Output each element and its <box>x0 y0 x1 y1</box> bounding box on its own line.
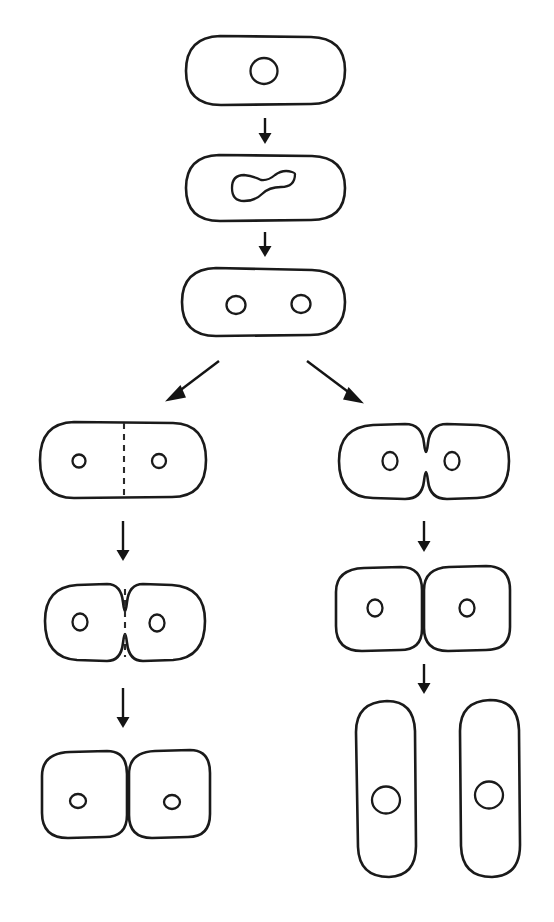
arrow-branch-right <box>307 361 364 404</box>
nucleus-right-right-stage-2 <box>460 600 475 617</box>
cell-outline-right-stage-1 <box>339 424 509 499</box>
nucleus-stage-1 <box>251 58 278 84</box>
arrow-branch-left <box>165 361 219 402</box>
nucleus-left-right-stage-2 <box>368 600 383 617</box>
arrow-right-stage-2-to-3 <box>418 664 431 694</box>
left-stage-constricting <box>45 584 205 661</box>
nucleus-left-left-stage-1 <box>73 455 86 468</box>
nucleus-left-left-stage-2 <box>73 614 88 631</box>
right-stage-daughter-cells <box>336 566 510 651</box>
nucleus-right-left-stage-2 <box>150 615 165 632</box>
arrow-left-stage-1-to-2 <box>117 521 130 561</box>
left-stage-daughter-cells <box>42 750 210 838</box>
cell-outline-left-stage-3-right <box>129 750 210 838</box>
nucleus-right-stage-3 <box>292 295 311 313</box>
arrow-left-stage-2-to-3 <box>117 688 130 728</box>
arrow-stage-1-to-2 <box>259 118 272 144</box>
right-stage-separated-cells <box>356 700 520 877</box>
stage-single-cell <box>186 36 345 105</box>
diagram-canvas <box>0 0 554 922</box>
arrow-stage-2-to-3 <box>259 232 272 257</box>
cell-outline-stage-3 <box>182 268 345 336</box>
nucleus-right-right-stage-1 <box>445 452 460 470</box>
nucleus-right-right-stage-3 <box>475 782 503 809</box>
stage-two-nucleoids <box>182 268 345 336</box>
right-stage-constricting <box>339 424 509 499</box>
nucleus-left-stage-3 <box>227 296 246 314</box>
arrow-right-stage-1-to-2 <box>418 521 431 552</box>
stage-dividing-nucleoid <box>186 155 345 221</box>
nucleus-right-left-stage-3 <box>164 795 180 809</box>
nucleus-left-right-stage-3 <box>372 787 400 814</box>
cell-outline-left-stage-3-left <box>42 751 127 838</box>
left-stage-septum-forming <box>40 422 206 498</box>
cell-division-diagram: Bacterial cell division (binary fission)… <box>0 0 554 922</box>
nucleus-right-left-stage-1 <box>152 454 166 468</box>
nucleus-left-right-stage-1 <box>383 452 398 470</box>
nucleus-left-left-stage-3 <box>70 794 86 808</box>
